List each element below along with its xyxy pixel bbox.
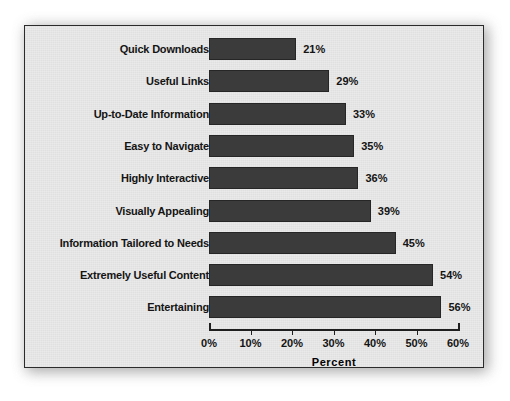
x-axis-tick-label: 30% (314, 337, 354, 349)
x-axis-title: Percent (209, 356, 459, 368)
x-axis-tick (251, 329, 252, 335)
chart-screenshot: Quick Downloads21%Useful Links29%Up-to-D… (0, 0, 510, 401)
bar-row: Easy to Navigate35% (25, 135, 485, 157)
x-axis-tick (292, 329, 293, 335)
bar (209, 232, 396, 254)
x-axis-tick (417, 329, 418, 335)
x-axis-tick-label: 20% (272, 337, 312, 349)
bar-row: Up-to-Date Information33% (25, 103, 485, 125)
category-label: Visually Appealing (115, 200, 209, 222)
bar (209, 167, 358, 189)
x-axis-tick (209, 323, 211, 331)
category-label: Useful Links (146, 70, 209, 92)
x-axis-tick-label: 10% (231, 337, 271, 349)
x-axis-tick (334, 329, 335, 335)
bar-value-label: 36% (365, 167, 387, 189)
bar-value-label: 45% (403, 232, 425, 254)
bar-value-label: 39% (378, 200, 400, 222)
bar-row: Entertaining56% (25, 296, 485, 318)
x-axis-tick (458, 323, 460, 331)
bar (209, 264, 433, 286)
bar-row: Extremely Useful Content54% (25, 264, 485, 286)
category-label: Information Tailored to Needs (60, 232, 209, 254)
bar (209, 38, 296, 60)
category-label: Highly Interactive (121, 167, 209, 189)
bar (209, 103, 346, 125)
category-label: Easy to Navigate (124, 135, 209, 157)
x-axis-tick-label: 60% (438, 337, 478, 349)
bar-value-label: 56% (448, 296, 470, 318)
category-label: Quick Downloads (120, 38, 209, 60)
bar (209, 135, 354, 157)
bar-row: Highly Interactive36% (25, 167, 485, 189)
chart-panel: Quick Downloads21%Useful Links29%Up-to-D… (24, 25, 484, 368)
category-label: Entertaining (147, 296, 209, 318)
plot-area: Quick Downloads21%Useful Links29%Up-to-D… (25, 26, 485, 369)
category-label: Up-to-Date Information (94, 103, 209, 125)
x-axis-tick (375, 329, 376, 335)
bar-value-label: 33% (353, 103, 375, 125)
x-axis-tick-label: 0% (189, 337, 229, 349)
bar-row: Quick Downloads21% (25, 38, 485, 60)
bar (209, 296, 441, 318)
bar-row: Information Tailored to Needs45% (25, 232, 485, 254)
bar-row: Useful Links29% (25, 70, 485, 92)
bar-value-label: 35% (361, 135, 383, 157)
x-axis-tick-label: 50% (397, 337, 437, 349)
x-axis-tick-label: 40% (355, 337, 395, 349)
category-label: Extremely Useful Content (80, 264, 209, 286)
bar-value-label: 29% (336, 70, 358, 92)
bar (209, 200, 371, 222)
bar-value-label: 54% (440, 264, 462, 286)
bar-value-label: 21% (303, 38, 325, 60)
bar-row: Visually Appealing39% (25, 200, 485, 222)
bar (209, 70, 329, 92)
